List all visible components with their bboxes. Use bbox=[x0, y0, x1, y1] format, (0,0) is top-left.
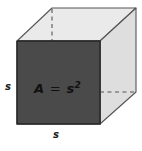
area-formula-base: A bbox=[34, 81, 44, 96]
side-length-label-bottom: s bbox=[53, 130, 59, 140]
area-formula-label: A = s2 bbox=[34, 81, 81, 95]
cube-surface-area-figure: A = s2 s s bbox=[0, 0, 142, 151]
cube-illustration bbox=[0, 0, 142, 151]
side-length-label-left: s bbox=[5, 82, 11, 92]
area-formula-exponent: 2 bbox=[74, 80, 81, 90]
area-formula-equals: = bbox=[44, 81, 66, 96]
